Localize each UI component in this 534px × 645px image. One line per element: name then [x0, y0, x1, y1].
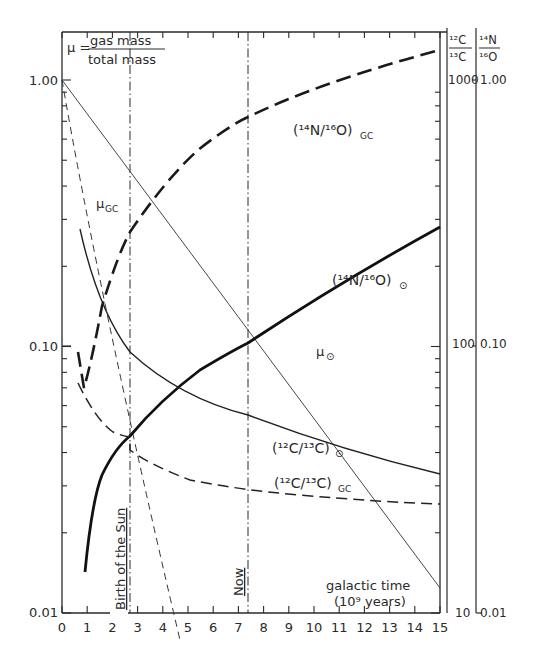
right-c-100: 100	[452, 337, 475, 351]
birth-of-sun-label: Birth of the Sun	[113, 508, 128, 610]
right-axis-c-top: ¹²C	[449, 33, 466, 47]
y-tick-1-00: 1.00	[29, 73, 58, 88]
label-c-c-gc: (¹²C/¹³C) GC	[274, 475, 351, 494]
y-axis-ticks	[62, 80, 71, 613]
svg-text:2: 2	[108, 620, 116, 635]
svg-text:gas mass: gas mass	[90, 33, 152, 48]
right-axis-n-bottom: ¹⁶O	[479, 50, 497, 64]
right-c-10: 10	[455, 606, 470, 620]
svg-text:(¹²C/¹³C): (¹²C/¹³C)	[272, 440, 330, 456]
chart: 0123456789101112131415 1.00 0.10 0.01 ¹²…	[0, 0, 534, 645]
svg-text:15: 15	[432, 620, 449, 635]
svg-text:1: 1	[83, 620, 91, 635]
now-label: Now	[231, 567, 246, 596]
svg-text:7: 7	[234, 620, 242, 635]
mu-formula: μ = gas mass total mass	[67, 33, 165, 67]
svg-text:12: 12	[356, 620, 373, 635]
right-n-0-10: 0.10	[480, 337, 507, 351]
y-tick-0-10: 0.10	[29, 339, 58, 354]
right-c-1000: 1000	[448, 73, 479, 87]
x-axis-units: (10⁹ years)	[334, 594, 406, 609]
svg-text:9: 9	[285, 620, 293, 635]
svg-text:μ: μ	[316, 344, 324, 359]
svg-text:10: 10	[306, 620, 323, 635]
svg-text:3: 3	[133, 620, 141, 635]
svg-text:11: 11	[331, 620, 348, 635]
right-n-0-01: 0.01	[480, 606, 507, 620]
svg-text:(¹⁴N/¹⁶O): (¹⁴N/¹⁶O)	[332, 272, 392, 288]
svg-text:GC: GC	[338, 484, 351, 494]
svg-text:⊙: ⊙	[335, 448, 343, 459]
right-axis-c-bottom: ¹³C	[449, 50, 466, 64]
label-n-o-sun: (¹⁴N/¹⁶O) ⊙	[332, 272, 407, 291]
svg-text:GC: GC	[360, 131, 373, 141]
svg-text:5: 5	[184, 620, 192, 635]
right-n-1-00: 1.00	[480, 73, 507, 87]
svg-text:μ =: μ =	[67, 40, 90, 55]
x-axis-tick-labels: 0123456789101112131415	[58, 620, 448, 635]
svg-text:GC: GC	[105, 204, 118, 214]
x-axis-label: galactic time	[326, 578, 410, 593]
right-axis-n-top: ¹⁴N	[479, 33, 497, 47]
label-mu-sun: μ ⊙	[316, 344, 334, 362]
svg-text:total mass: total mass	[88, 52, 156, 67]
svg-text:(¹⁴N/¹⁶O): (¹⁴N/¹⁶O)	[293, 122, 353, 138]
label-c-c-sun: (¹²C/¹³C) ⊙	[272, 440, 343, 459]
label-n-o-gc: (¹⁴N/¹⁶O) GC	[293, 122, 373, 141]
series-c-c-gc	[78, 383, 440, 504]
svg-text:μ: μ	[96, 196, 104, 211]
label-mu-gc: μ GC	[96, 196, 118, 214]
y-tick-0-01: 0.01	[29, 605, 58, 620]
svg-text:8: 8	[259, 620, 267, 635]
svg-text:14: 14	[407, 620, 424, 635]
svg-text:⊙: ⊙	[399, 280, 407, 291]
svg-text:0: 0	[58, 620, 66, 635]
svg-text:⊙: ⊙	[326, 351, 334, 362]
svg-text:(¹²C/¹³C): (¹²C/¹³C)	[274, 475, 332, 491]
svg-text:6: 6	[209, 620, 217, 635]
svg-text:13: 13	[381, 620, 398, 635]
svg-text:4: 4	[159, 620, 167, 635]
